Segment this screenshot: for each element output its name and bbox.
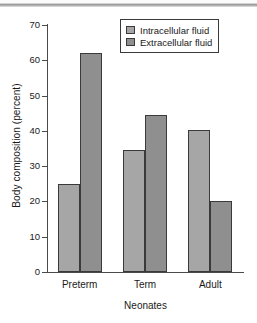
legend-label-intracellular: Intracellular fluid	[140, 25, 209, 36]
bar-preterm-extracellular	[80, 53, 102, 272]
bar-term-intracellular	[123, 150, 145, 272]
legend-swatch-icon-intracellular	[126, 26, 135, 34]
legend-item-extracellular-fluid: Extracellular fluid	[126, 36, 212, 48]
y-axis-tick-label: 60	[6, 55, 40, 65]
legend-item-intracellular-fluid: Intracellular fluid	[126, 24, 212, 36]
bar-adult-extracellular	[210, 201, 232, 272]
chart-legend: Intracellular fluid Extracellular fluid	[120, 19, 219, 53]
legend-swatch-icon-extracellular	[126, 38, 135, 46]
y-axis-tick-label: 40	[6, 126, 40, 136]
y-axis-tick	[42, 25, 47, 26]
bar-term-extracellular	[145, 115, 167, 272]
legend-label-extracellular: Extracellular fluid	[140, 37, 212, 48]
bar-chart-figure: Body composition (percent) 7060504030201…	[0, 0, 257, 323]
y-axis-tick	[42, 237, 47, 238]
x-axis-title: Neonates	[47, 300, 244, 311]
x-axis-line	[47, 272, 244, 273]
y-axis-tick-label: 20	[6, 196, 40, 206]
y-axis-tick	[42, 131, 47, 132]
y-axis-tick-labels: 706050403020100	[0, 0, 40, 323]
y-axis-tick	[42, 166, 47, 167]
y-axis-tick-label: 0	[6, 267, 40, 277]
y-axis-tick	[42, 201, 47, 202]
y-axis-tick-label: 50	[6, 91, 40, 101]
y-axis-tick-label: 10	[6, 232, 40, 242]
y-axis-tick	[42, 96, 47, 97]
bar-adult-intracellular	[188, 130, 210, 272]
x-axis-tick-label-adult: Adult	[170, 279, 250, 290]
y-axis-tick-label: 30	[6, 161, 40, 171]
y-axis-tick-label: 70	[6, 20, 40, 30]
plot-area	[47, 25, 243, 272]
bar-preterm-intracellular	[58, 184, 80, 272]
y-axis-tick	[42, 272, 47, 273]
y-axis-tick	[42, 60, 47, 61]
